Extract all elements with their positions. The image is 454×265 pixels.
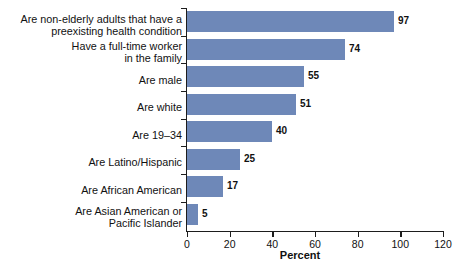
bar-value-label: 74 (349, 42, 360, 56)
bar-value-label: 51 (300, 97, 311, 111)
bar (187, 149, 240, 170)
category-label: Are non-elderly adults that have a preex… (0, 13, 182, 38)
bar-value-label: 25 (244, 152, 255, 166)
value-tick (400, 232, 401, 237)
bar-chart: Are non-elderly adults that have a preex… (0, 0, 454, 265)
bar (187, 94, 296, 115)
value-tick (230, 232, 231, 237)
bar (187, 11, 394, 32)
category-label: Are Asian American or Pacific Islander (0, 205, 182, 230)
category-label: Are 19–34 (0, 129, 182, 141)
bar-value-label: 5 (202, 207, 208, 221)
bar (187, 66, 304, 87)
category-label: Are white (0, 101, 182, 113)
category-label: Are African American (0, 184, 182, 196)
bar-value-label: 40 (276, 124, 287, 138)
x-axis-title: Percent (180, 249, 420, 261)
bar (187, 204, 198, 225)
category-label: Are Latino/Hispanic (0, 156, 182, 168)
value-tick (272, 232, 273, 237)
value-tick (187, 232, 188, 237)
value-tick (358, 232, 359, 237)
bar-value-label: 17 (227, 179, 238, 193)
bar (187, 121, 272, 142)
bar-value-label: 55 (308, 69, 319, 83)
bar (187, 176, 223, 197)
value-tick (443, 232, 444, 237)
bar (187, 39, 345, 60)
category-label: Have a full-time worker in the family (0, 40, 182, 65)
bar-value-label: 97 (398, 14, 409, 28)
plot-area: 97 74 55 51 40 25 17 5 (187, 8, 443, 232)
value-tick-label: 120 (423, 238, 454, 250)
category-label: Are male (0, 74, 182, 86)
value-tick (315, 232, 316, 237)
